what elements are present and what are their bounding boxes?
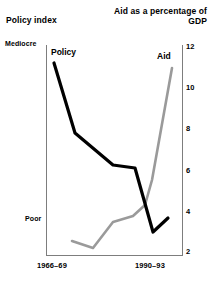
series-line-policy	[54, 63, 168, 232]
chart-plot-area	[0, 0, 211, 282]
series-line-aid	[72, 68, 172, 248]
chart-container: Policy index Aid as a percentage of GDP …	[0, 0, 211, 282]
